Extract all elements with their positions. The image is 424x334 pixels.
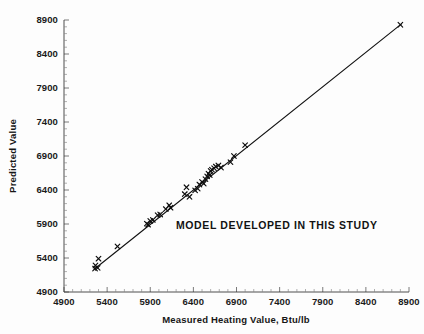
data-point <box>219 165 224 170</box>
y-tick-label: 8900 <box>36 14 58 25</box>
data-point <box>398 22 403 27</box>
x-tick-label: 8900 <box>398 296 420 307</box>
y-axis-ticks <box>64 20 69 292</box>
y-tick-label: 6400 <box>36 184 58 195</box>
x-tick-label: 5400 <box>96 296 118 307</box>
y-axis-tick-labels: 490054005900640069007400790084008900 <box>36 14 58 297</box>
y-tick-label: 5400 <box>36 252 58 263</box>
x-tick-label: 6400 <box>183 296 205 307</box>
annotation-label: MODEL DEVELOPED IN THIS STUDY <box>176 219 378 231</box>
y-tick-label: 7400 <box>36 116 58 127</box>
x-tick-label: 8400 <box>355 296 377 307</box>
x-tick-label: 7900 <box>312 296 334 307</box>
y-tick-label: 7900 <box>36 82 58 93</box>
x-tick-label: 6900 <box>226 296 248 307</box>
y-tick-label: 6900 <box>36 150 58 161</box>
y-tick-label: 8400 <box>36 48 58 59</box>
x-axis-ticks <box>64 287 409 292</box>
x-tick-label: 7400 <box>269 296 291 307</box>
data-point <box>115 244 120 249</box>
data-point <box>187 195 192 200</box>
data-point <box>184 185 189 190</box>
data-point <box>182 192 187 197</box>
x-tick-label: 5900 <box>139 296 161 307</box>
x-axis-title: Measured Heating Value, Btu/lb <box>162 314 309 325</box>
chart-figure: 490054005900640069007400790084008900 490… <box>0 0 424 334</box>
x-tick-label: 4900 <box>53 296 75 307</box>
scatter-plot: 490054005900640069007400790084008900 490… <box>0 0 424 334</box>
regression-line <box>94 24 401 269</box>
x-axis-tick-labels: 490054005900640069007400790084008900 <box>53 296 420 307</box>
data-point <box>243 143 248 148</box>
y-axis-title: Predicted Value <box>7 119 18 193</box>
data-point <box>96 256 101 261</box>
y-tick-label: 5900 <box>36 218 58 229</box>
